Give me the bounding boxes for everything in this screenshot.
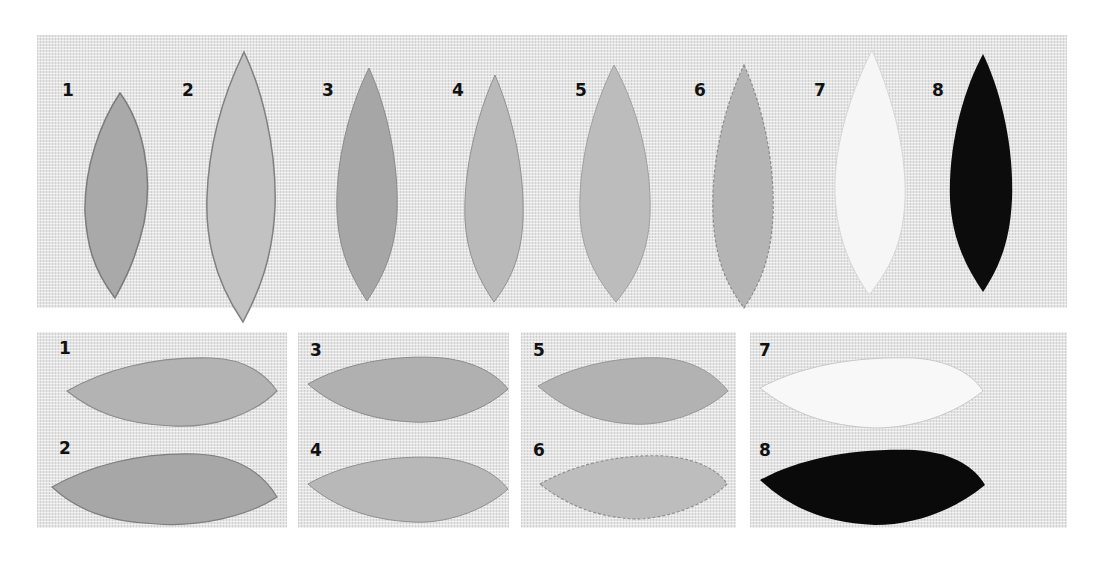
leaf-sample-6-horizontal: [535, 444, 735, 529]
leaf-sample-5: [574, 60, 659, 305]
leaf-sample-3-horizontal: [303, 344, 513, 429]
sample-number-1: 1: [62, 82, 74, 99]
bottom-panel-5-6: 5 6: [521, 332, 736, 528]
sample-number-7: 7: [814, 82, 826, 99]
sample-number-6: 6: [694, 82, 706, 99]
sample-number-2: 2: [182, 82, 194, 99]
leaf-sample-8: [942, 49, 1022, 294]
leaf-sample-4-horizontal: [303, 444, 513, 529]
top-sample-panel: 1 2 3 4 5 6 7 8: [37, 35, 1067, 308]
leaf-sample-2-horizontal: [47, 442, 287, 532]
leaf-sample-7-horizontal: [755, 346, 995, 436]
leaf-sample-6: [707, 60, 782, 310]
leaf-sample-5-horizontal: [533, 346, 733, 431]
leaf-sample-4: [457, 70, 532, 305]
leaf-sample-2: [199, 47, 284, 327]
leaf-sample-7: [827, 45, 912, 300]
leaf-sample-3: [327, 63, 407, 303]
leaf-sample-1-horizontal: [62, 346, 287, 436]
leaf-sample-8-horizontal: [755, 440, 995, 530]
bottom-panel-7-8: 7 8: [750, 332, 1067, 528]
bottom-panel-1-2: 1 2: [37, 332, 287, 528]
leaf-sample-1: [82, 63, 167, 303]
bottom-panel-3-4: 3 4: [298, 332, 509, 528]
